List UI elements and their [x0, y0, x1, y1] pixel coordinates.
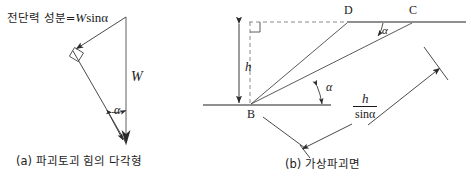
angle-label-b-top: α — [382, 25, 388, 37]
shear-component-label-alpha: α — [101, 10, 108, 25]
length-dimension-tick — [424, 47, 448, 80]
point-label-b: B — [247, 108, 255, 121]
angle-label-a: α — [114, 104, 120, 117]
shear-component-label-sin: sin — [86, 10, 101, 25]
angle-label-b-base: α — [326, 81, 332, 94]
caption-panel-b: (b) 가상파괴면 — [285, 155, 360, 171]
caption-leader-left — [263, 117, 305, 148]
angle-arc-b-base — [317, 86, 322, 104]
shear-component-label-ko: 전단력 성분= — [7, 11, 75, 25]
shear-component-label-w: W — [75, 10, 86, 25]
point-label-c: C — [409, 4, 417, 17]
length-label-h-over-sin-alpha: h sinα — [353, 92, 377, 120]
height-label: h — [245, 60, 252, 74]
panel-a-force-polygon — [69, 17, 130, 146]
length-label-numerator: h — [353, 92, 377, 105]
right-angle-mark-a — [69, 48, 83, 62]
shear-component-label: 전단력 성분=Wsinα — [7, 9, 108, 26]
caption-leader-right — [302, 124, 352, 149]
length-dimension-leader — [368, 68, 440, 125]
weight-label: W — [131, 70, 143, 85]
normal-component-line — [73, 51, 126, 143]
caption-panel-a: (a) 파괴토괴 힘의 다각형 — [16, 152, 142, 168]
length-label-denominator: sinα — [353, 108, 377, 120]
point-label-d: D — [344, 4, 353, 17]
figure-container: 전단력 성분=Wsinα W α (a) 파괴토괴 힘의 다각형 h B D C… — [0, 0, 471, 182]
panel-b-failure-plane — [203, 22, 466, 158]
right-angle-mark-b — [250, 22, 260, 32]
